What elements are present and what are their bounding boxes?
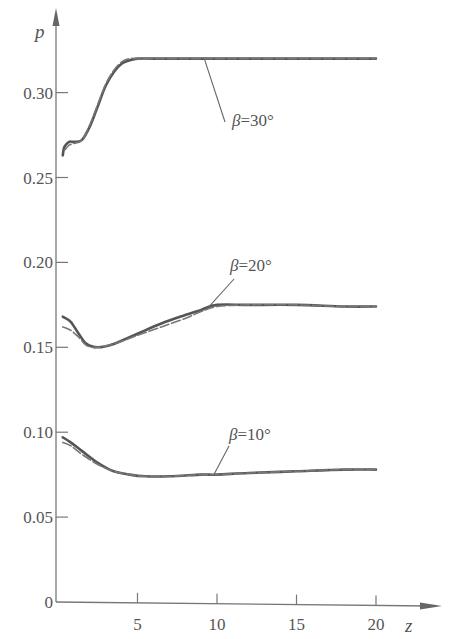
annotations: β=30°β=20°β=10° [204, 59, 274, 475]
annotation-leader-line [209, 279, 234, 307]
x-tick-label: 10 [209, 615, 226, 634]
x-tick-label: 20 [368, 615, 385, 634]
x-axis [56, 602, 430, 606]
x-tick-label: 5 [133, 615, 142, 634]
y-tick-label: 0 [45, 593, 54, 612]
y-ticks: 00.050.100.150.200.250.30 [23, 84, 68, 612]
x-axis-arrow-icon [420, 603, 442, 610]
series-group [63, 58, 376, 476]
annotation-label: β=10° [228, 425, 271, 444]
x-tick-label: 15 [288, 615, 305, 634]
x-ticks: 5101520 [133, 593, 384, 634]
series-line-20 [63, 305, 376, 348]
y-axis-label: p [33, 21, 45, 42]
series-line-20-dashed [63, 305, 376, 348]
annotation-label: β=30° [231, 111, 274, 130]
series-line-30-dashed [64, 58, 376, 150]
annotation-leader-line [214, 446, 229, 475]
y-tick-label: 0.10 [23, 423, 53, 442]
axes: p z [33, 8, 442, 636]
y-tick-label: 0.20 [23, 253, 53, 272]
line-chart: p z 00.050.100.150.200.250.30 5101520 β=… [0, 0, 449, 639]
y-tick-label: 0.25 [23, 169, 53, 188]
y-tick-label: 0.05 [23, 508, 53, 527]
annotation-leader-line [204, 59, 225, 122]
x-axis-label: z [404, 615, 413, 636]
y-tick-label: 0.15 [23, 338, 53, 357]
series-line-10-dashed [63, 442, 376, 476]
y-axis-arrow-icon [53, 8, 60, 26]
annotation-label: β=20° [229, 256, 272, 275]
series-line-30 [63, 59, 376, 156]
y-tick-label: 0.30 [23, 84, 53, 103]
